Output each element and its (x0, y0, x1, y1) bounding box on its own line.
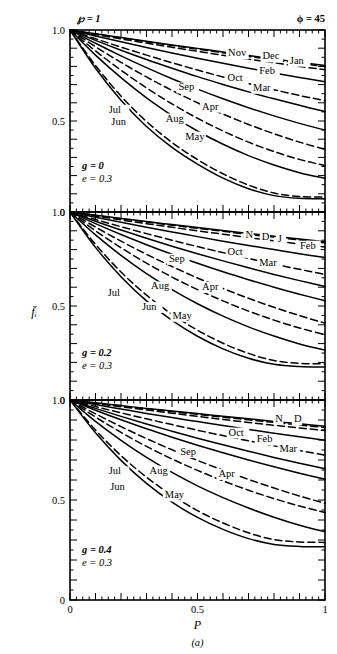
x-tick-marks (70, 400, 325, 600)
curve-label: N (245, 229, 253, 240)
curve-label: Sep (180, 446, 196, 457)
y-tick-label-mid: 0.5 (52, 116, 65, 127)
curve-label: Aug (151, 280, 170, 291)
curve-label: Aug (166, 113, 185, 124)
curve-label: Mar (259, 257, 277, 268)
panel-frame (70, 30, 325, 212)
x-axis-label: P (193, 618, 202, 632)
curve-label: Jul (108, 287, 120, 298)
curve-label: Dec (263, 50, 280, 61)
curve-label: J (278, 233, 282, 244)
panel-bottom: NDOctFebMarSepAprAugJulJunMay1.00.50g = … (52, 395, 325, 606)
panel-parameters: g = 0.4e = 0.3 (81, 544, 112, 568)
y-tick-label-mid: 0.5 (52, 495, 65, 506)
curve-label: May (185, 131, 205, 142)
x-tick-label: 0.5 (191, 604, 204, 615)
curve-mar (70, 212, 325, 274)
curve-label: Aug (150, 465, 169, 476)
curve-label: Oct (229, 427, 244, 438)
x-tick-marks (70, 30, 325, 212)
param-g: g = 0 (81, 160, 104, 171)
top-left-parameter: ℘ = 1 (76, 13, 100, 25)
curve-label: Jun (142, 301, 157, 312)
curve-label: Apr (202, 101, 219, 112)
fchart-plot: NovDecJanFebOctMarSepAprJulJunAugMay1.00… (0, 0, 337, 654)
curve-label: Jun (111, 116, 126, 127)
panel-parameters: g = 0.2e = 0.3 (81, 347, 112, 371)
curve-label: Feb (259, 65, 275, 76)
curve-label: Jul (109, 465, 121, 476)
curve-label: Jul (109, 104, 121, 115)
curve-label: Oct (228, 72, 243, 83)
y-axis-label: f̄ᵢ (31, 305, 38, 319)
curve-label: Mar (280, 443, 298, 454)
y-tick-label-mid: 0.5 (52, 301, 65, 312)
curve-label: N (275, 413, 283, 424)
curve-feb (70, 30, 325, 82)
curve-label: Apr (202, 281, 219, 292)
x-tick-label: 1 (322, 604, 327, 615)
curve-label: Apr (218, 468, 235, 479)
param-g: g = 0.4 (81, 544, 112, 555)
curve-may (70, 212, 325, 335)
curve-label: Mar (253, 82, 271, 93)
curve-label: D (294, 413, 302, 424)
curve-label: Jun (110, 481, 125, 492)
curve-label: Jan (290, 55, 305, 66)
curve-labels: NovDecJanFebOctMarSepAprJulJunAugMay (107, 47, 311, 142)
y-tick-label-bottom: 0 (60, 595, 65, 606)
param-e: e = 0.3 (82, 557, 112, 568)
figure-caption: (a) (191, 637, 204, 649)
panel-top: NovDecJanFebOctMarSepAprJulJunAugMay1.00… (52, 25, 325, 218)
curve-label: Oct (228, 246, 243, 257)
y-tick-label-top: 1.0 (52, 395, 65, 406)
panel-middle: NDJFebOctMarSepAprAugJulJunMay1.00.50g =… (52, 207, 325, 406)
y-tick-marks (70, 30, 325, 212)
x-tick-labels: 00.51 (67, 604, 327, 615)
y-tick-label-top: 1.0 (52, 25, 65, 36)
param-e: e = 0.3 (82, 173, 112, 184)
curve-aug (70, 212, 325, 350)
curve-label: Feb (300, 240, 316, 251)
curve-label: May (165, 489, 185, 500)
y-tick-labels: 1.00.50 (52, 207, 65, 406)
curve-label: May (173, 310, 193, 321)
y-tick-marks (70, 400, 325, 600)
curve-label: D (262, 231, 270, 242)
param-g: g = 0.2 (81, 347, 112, 358)
curve-label: Nov (228, 47, 247, 58)
y-tick-labels: 1.00.50 (52, 395, 65, 606)
top-right-parameter: ϕ = 45 (297, 13, 325, 24)
x-tick-label: 0 (67, 604, 72, 615)
panel-frame (70, 400, 325, 600)
curve-label: Sep (169, 253, 185, 264)
figure-container: NovDecJanFebOctMarSepAprJulJunAugMay1.00… (0, 0, 337, 654)
curve-label: Feb (257, 433, 273, 444)
y-tick-label-top: 1.0 (52, 207, 65, 218)
curve-label: Sep (178, 81, 194, 92)
panel-parameters: g = 0e = 0.3 (81, 160, 112, 184)
y-tick-labels: 1.00.50 (52, 25, 65, 218)
param-e: e = 0.3 (82, 360, 112, 371)
